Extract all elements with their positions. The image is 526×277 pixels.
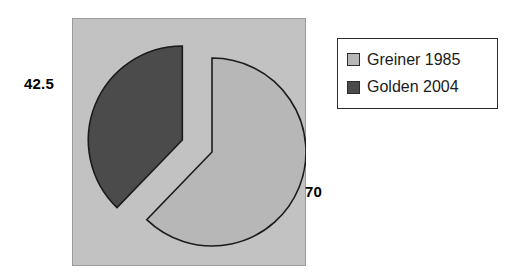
legend-item-greiner-1985[interactable]: Greiner 1985 [347,48,488,72]
chart-legend: Greiner 1985 Golden 2004 [337,38,498,109]
data-label-golden-2004: 42.5 [24,75,54,92]
legend-label-golden-2004: Golden 2004 [367,79,459,95]
legend-label-greiner-1985: Greiner 1985 [367,52,460,68]
pie-chart-figure: 42.5 70 Greiner 1985 Golden 2004 [0,0,526,277]
legend-item-golden-2004[interactable]: Golden 2004 [347,75,488,99]
legend-swatch-greiner-icon [347,53,360,66]
pie-svg [72,18,306,266]
data-label-greiner-1985: 70 [305,183,322,200]
pie-slice-golden-2004[interactable] [88,46,182,208]
legend-swatch-golden-icon [347,81,360,94]
